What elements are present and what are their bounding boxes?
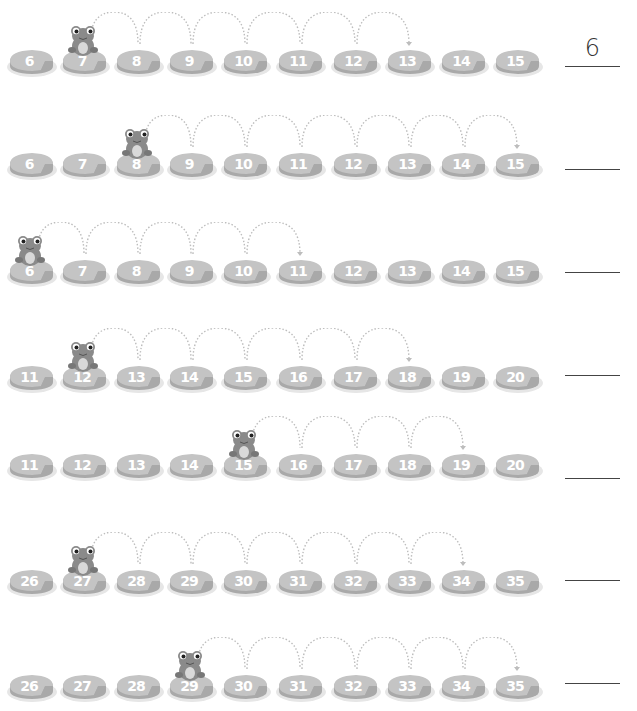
lily-pad: 20 [493, 452, 545, 482]
lily-pad: 8 [114, 48, 166, 78]
lily-pad: 13 [114, 364, 166, 394]
lily-pad: 11 [276, 151, 328, 181]
pad-number: 28 [114, 573, 158, 589]
frog-icon [12, 232, 48, 268]
pad-number: 10 [221, 263, 265, 279]
pad-number: 12 [60, 457, 104, 473]
lily-pad: 27 [60, 673, 112, 703]
answer-line [565, 375, 620, 376]
pad-number: 18 [385, 369, 429, 385]
pad-number: 6 [7, 53, 51, 69]
pad-number: 13 [114, 457, 158, 473]
number-line-row: 6 7 8 9 10 11 12 13 14 [0, 115, 637, 215]
lily-pad: 32 [331, 673, 383, 703]
answer-line [565, 478, 620, 479]
lily-pad: 13 [385, 258, 437, 288]
lily-pad: 20 [493, 364, 545, 394]
lily-pad: 10 [221, 48, 273, 78]
lily-pad: 33 [385, 568, 437, 598]
pad-number: 9 [167, 263, 211, 279]
frog-icon [65, 542, 101, 578]
pad-number: 10 [221, 156, 265, 172]
pad-number: 15 [221, 369, 265, 385]
pad-number: 34 [439, 573, 483, 589]
lily-pad: 16 [276, 452, 328, 482]
lily-pad: 15 [493, 258, 545, 288]
pad-number: 12 [331, 263, 375, 279]
pad-number: 35 [493, 573, 537, 589]
pad-number: 35 [493, 678, 537, 694]
lily-pad: 31 [276, 673, 328, 703]
lily-pad: 12 [331, 258, 383, 288]
lily-pad: 8 [114, 258, 166, 288]
pad-number: 20 [493, 369, 537, 385]
pad-number: 9 [167, 156, 211, 172]
lily-pad: 17 [331, 364, 383, 394]
lily-pad: 31 [276, 568, 328, 598]
pad-number: 11 [7, 369, 51, 385]
lily-pad: 18 [385, 364, 437, 394]
lily-pad: 18 [385, 452, 437, 482]
pad-number: 11 [7, 457, 51, 473]
lily-pad: 17 [331, 452, 383, 482]
lily-pad: 9 [167, 48, 219, 78]
pad-number: 15 [493, 263, 537, 279]
pad-number: 20 [493, 457, 537, 473]
number-line-row: 26 27 28 29 30 31 32 33 [0, 637, 637, 711]
answer-line [565, 169, 620, 170]
lily-pad: 35 [493, 673, 545, 703]
pad-number: 17 [331, 457, 375, 473]
lily-pad: 14 [439, 258, 491, 288]
pad-number: 15 [493, 156, 537, 172]
lily-pad: 14 [167, 452, 219, 482]
pad-number: 12 [331, 156, 375, 172]
lily-pad: 7 [60, 258, 112, 288]
answer-line [565, 66, 620, 67]
lily-pad: 15 [221, 364, 273, 394]
number-line-row: 11 12 13 14 15 16 17 18 [0, 328, 637, 428]
lily-pad: 9 [167, 258, 219, 288]
lily-pad: 11 [7, 364, 59, 394]
lily-pad: 30 [221, 568, 273, 598]
pad-number: 26 [7, 573, 51, 589]
pad-number: 33 [385, 573, 429, 589]
pad-number: 30 [221, 573, 265, 589]
pad-number: 32 [331, 678, 375, 694]
lily-pad: 13 [385, 151, 437, 181]
frog-icon [65, 22, 101, 58]
pad-number: 14 [439, 263, 483, 279]
lily-pad: 15 [493, 151, 545, 181]
lily-pad: 11 [276, 48, 328, 78]
pad-number: 7 [60, 156, 104, 172]
answer-line [565, 580, 620, 581]
answer-line [565, 683, 620, 684]
pad-number: 11 [276, 156, 320, 172]
pad-number: 30 [221, 678, 265, 694]
frog-icon [172, 647, 208, 683]
pad-number: 32 [331, 573, 375, 589]
pad-number: 13 [385, 156, 429, 172]
lily-pad: 14 [439, 48, 491, 78]
pad-number: 11 [276, 53, 320, 69]
lily-pad: 12 [331, 48, 383, 78]
lily-pad: 9 [167, 151, 219, 181]
lily-pad: 26 [7, 568, 59, 598]
pad-number: 16 [276, 457, 320, 473]
pad-number: 6 [7, 156, 51, 172]
pad-number: 31 [276, 678, 320, 694]
pad-number: 12 [331, 53, 375, 69]
answer-field[interactable]: 6 [565, 34, 620, 62]
lily-pad: 11 [7, 452, 59, 482]
pad-number: 13 [385, 263, 429, 279]
pad-number: 31 [276, 573, 320, 589]
lily-pad: 12 [331, 151, 383, 181]
frog-icon [226, 426, 262, 462]
number-line-row: 26 27 28 29 30 31 32 33 [0, 532, 637, 632]
lily-pad: 28 [114, 673, 166, 703]
pad-number: 29 [167, 573, 211, 589]
pad-number: 34 [439, 678, 483, 694]
lily-pad: 33 [385, 673, 437, 703]
lily-pad: 10 [221, 151, 273, 181]
lily-pad: 15 [493, 48, 545, 78]
number-line-row: 11 12 13 14 15 16 17 18 [0, 416, 637, 516]
